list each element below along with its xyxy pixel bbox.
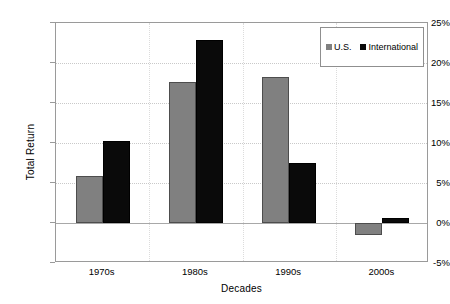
y-tick-label: 5% [402, 177, 450, 188]
x-tick-label: 1990s [275, 266, 301, 277]
bar [76, 176, 103, 223]
y-tick-mark [50, 22, 55, 23]
y-tick-mark [50, 182, 55, 183]
y-tick-label: 25% [402, 17, 450, 28]
bar [103, 141, 130, 223]
black-square-icon [360, 44, 366, 50]
x-tick-label: 1970s [89, 266, 115, 277]
bar [355, 223, 382, 235]
category-separator [243, 23, 244, 261]
bar [262, 77, 289, 223]
y-tick-label: -5% [402, 257, 450, 268]
y-tick-mark [50, 222, 55, 223]
gridline [56, 103, 427, 104]
x-tick-label: 1980s [182, 266, 208, 277]
y-tick-label: 0% [402, 217, 450, 228]
x-tick-label: 2000s [368, 266, 394, 277]
y-tick-mark [50, 102, 55, 103]
chart-legend: U.S.International [320, 27, 424, 67]
legend-label: International [368, 42, 418, 52]
y-tick-mark [50, 142, 55, 143]
bar [289, 163, 316, 223]
legend-entry: U.S. [326, 42, 352, 52]
gray-square-icon [326, 44, 332, 50]
legend-entry: International [360, 42, 418, 52]
y-tick-mark [50, 62, 55, 63]
bar-chart: Total Return Decades -5%0%5%10%15%20%25%… [0, 0, 450, 304]
y-tick-label: 15% [402, 97, 450, 108]
y-axis-title: Total Return [22, 0, 40, 304]
y-tick-mark [50, 262, 55, 263]
bar [196, 40, 223, 223]
bar [169, 82, 196, 223]
legend-label: U.S. [334, 42, 352, 52]
y-tick-label: 10% [402, 137, 450, 148]
category-separator [149, 23, 150, 261]
x-axis-title: Decades [55, 283, 428, 294]
